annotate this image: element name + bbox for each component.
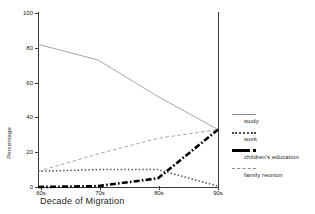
cropped-title-fragment-right xyxy=(258,0,272,4)
legend-item-childrens-education[interactable]: children's education xyxy=(230,146,315,164)
legend-label-work: work xyxy=(244,135,257,143)
series-line-family-reunion xyxy=(38,130,218,172)
y-tick-label-80: 80 xyxy=(5,45,33,51)
y-tick-60 xyxy=(35,83,39,84)
legend-item-study[interactable]: study xyxy=(230,110,315,128)
x-tick-label-90s: 90s xyxy=(206,190,230,197)
x-tick-label-80s: 80s xyxy=(147,190,171,197)
x-axis-title: Decade of Migration xyxy=(40,196,124,206)
series-line-study xyxy=(38,44,218,129)
series-line-work xyxy=(38,170,218,187)
y-tick-label-100: 100 xyxy=(5,10,33,16)
series-line-children-s-education xyxy=(38,130,218,187)
legend-item-family-reunion[interactable]: family reunion xyxy=(230,164,315,182)
y-tick-40 xyxy=(35,117,39,118)
y-axis-line xyxy=(38,12,39,188)
y-tick-100 xyxy=(35,13,39,14)
legend-item-work[interactable]: work xyxy=(230,128,315,146)
y-tick-20 xyxy=(35,152,39,153)
y-axis-title: Percentage xyxy=(6,115,12,171)
cropped-title-fragment-left xyxy=(18,0,28,4)
legend-label-study: study xyxy=(244,117,259,125)
thick-dash-dot-line-icon-dot xyxy=(253,149,256,152)
legend-label-family-reunion: family reunion xyxy=(244,171,283,179)
legend-label-childrens-education: children's education xyxy=(244,153,299,161)
y-tick-80 xyxy=(35,48,39,49)
chart-legend: study work children's education family r… xyxy=(230,110,315,182)
plot-right-border xyxy=(218,12,219,188)
chart-screenshot: 100 80 60 40 20 0 60s 70s 80s 90s Percen… xyxy=(0,0,315,214)
y-tick-0 xyxy=(35,187,39,188)
y-tick-label-60: 60 xyxy=(5,80,33,86)
x-axis-line xyxy=(38,187,219,188)
